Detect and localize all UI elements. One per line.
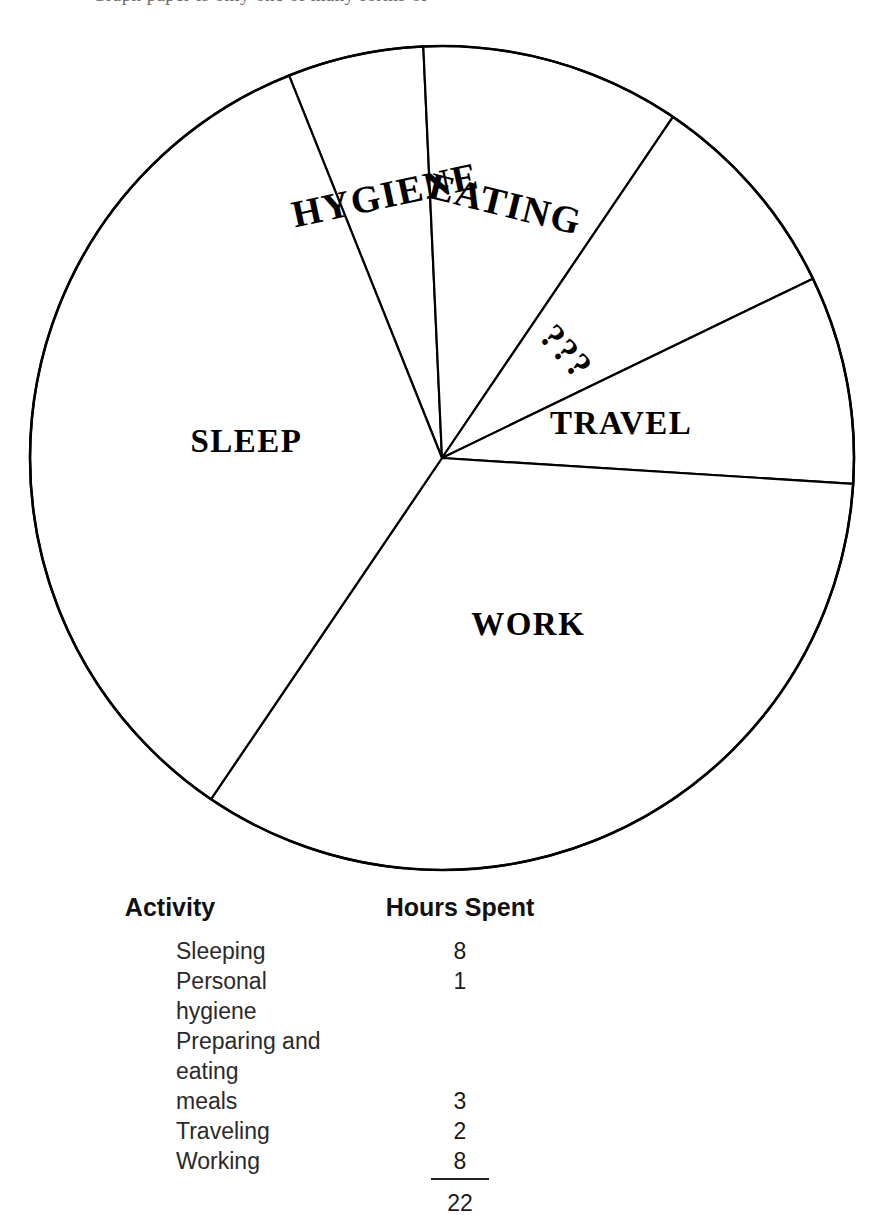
cell-hours: 3	[340, 1086, 580, 1116]
header-hours: Hours Spent	[340, 893, 580, 936]
total-label-spacer	[0, 1187, 340, 1215]
cell-hours: 1	[340, 966, 580, 1026]
cell-activity: Sleeping	[0, 936, 340, 966]
table-row: Traveling2	[0, 1116, 580, 1146]
cell-hours	[340, 1026, 580, 1086]
table-row: meals3	[0, 1086, 580, 1116]
table-total-row: 22	[0, 1187, 580, 1215]
total-value: 22	[340, 1187, 580, 1215]
table-row: Sleeping8	[0, 936, 580, 966]
sum-rule-spacer	[0, 1176, 340, 1187]
sum-rule-line	[431, 1178, 489, 1180]
sum-rule-cell	[340, 1176, 580, 1187]
cell-activity: Preparing and eating	[0, 1026, 340, 1086]
cell-activity: Working	[0, 1146, 340, 1176]
header-activity: Activity	[0, 893, 340, 936]
table: Activity Hours Spent Sleeping8Personal h…	[0, 893, 580, 1215]
pie-label-work: WORK	[471, 606, 585, 642]
table-row: Preparing and eating	[0, 1026, 580, 1086]
cell-activity: Traveling	[0, 1116, 340, 1146]
pie-chart: HYGIENEEATING???TRAVELWORKSLEEP	[0, 0, 869, 900]
table-sum-rule-row	[0, 1176, 580, 1187]
pie-label-travel: TRAVEL	[550, 405, 692, 441]
table-row: Working8	[0, 1146, 580, 1176]
cell-hours: 8	[340, 1146, 580, 1176]
cell-activity: meals	[0, 1086, 340, 1116]
table-header-row: Activity Hours Spent	[0, 893, 580, 936]
cell-activity: Personal hygiene	[0, 966, 340, 1026]
activity-hours-table: Activity Hours Spent Sleeping8Personal h…	[0, 893, 869, 1215]
cell-hours: 8	[340, 936, 580, 966]
cell-hours: 2	[340, 1116, 580, 1146]
pie-label-sleep: SLEEP	[190, 423, 302, 459]
pie-chart-svg: HYGIENEEATING???TRAVELWORKSLEEP	[0, 0, 869, 900]
table-row: Personal hygiene1	[0, 966, 580, 1026]
